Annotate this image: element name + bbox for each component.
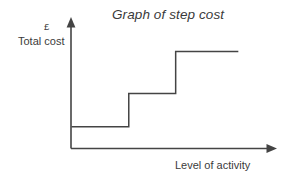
y-axis-label: Total cost [18,36,64,47]
y-axis-currency-unit: £ [44,22,49,32]
chart-title: Graph of step cost [112,8,224,22]
up-arrow-icon [67,17,76,28]
step-cost-chart-figure: Graph of step cost £ Total cost Level of… [0,0,290,181]
right-arrow-icon [267,144,278,153]
step-cost-line [72,52,239,127]
x-axis-label: Level of activity [175,160,250,171]
